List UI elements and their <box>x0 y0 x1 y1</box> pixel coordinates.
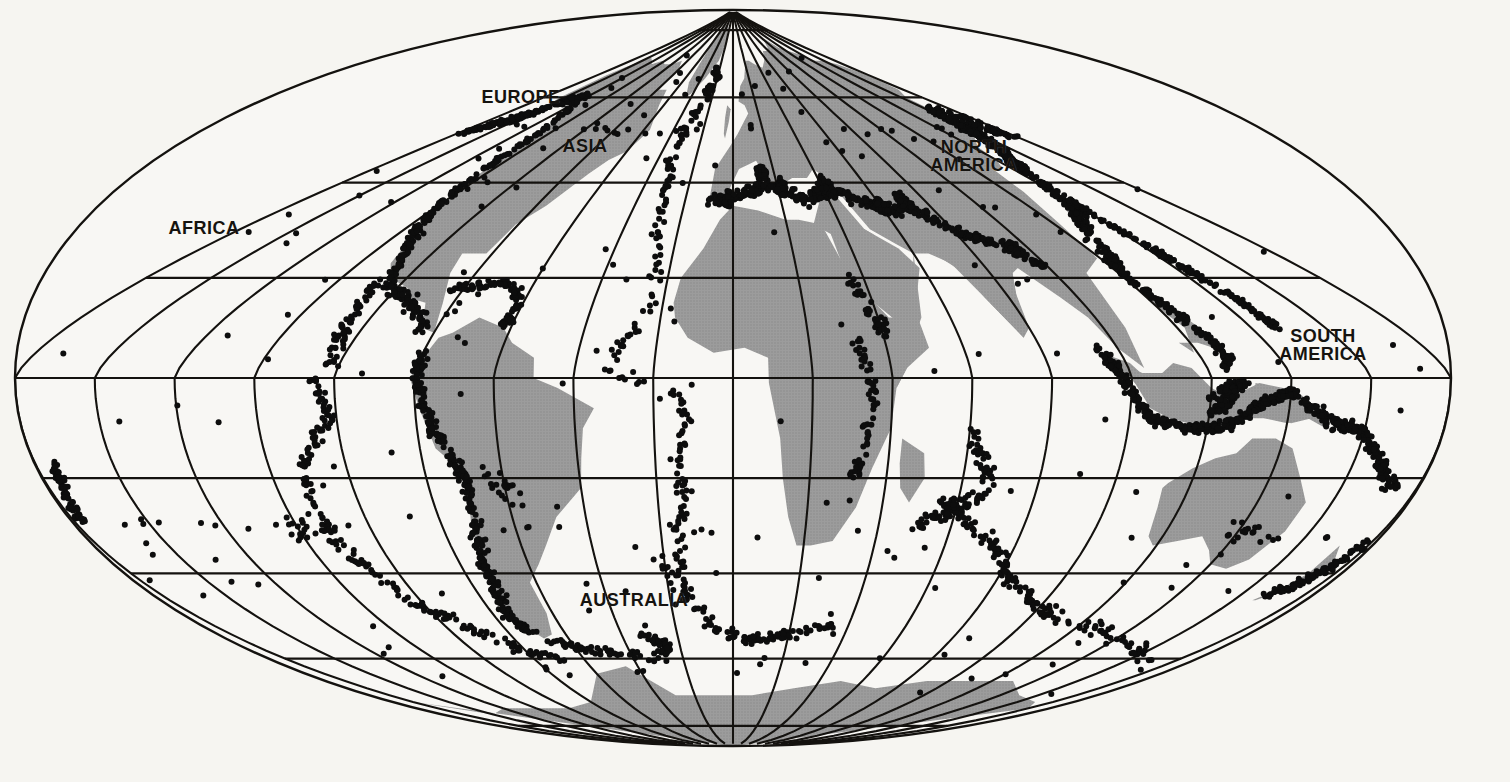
epicenter-dot <box>1073 211 1079 217</box>
epicenter-dot <box>333 538 339 544</box>
epicenter-dot <box>1138 667 1144 673</box>
epicenter-dot <box>517 648 523 654</box>
epicenter-dot <box>1324 534 1330 540</box>
epicenter-dot <box>889 128 895 134</box>
epicenter-dot <box>702 624 708 630</box>
epicenter-dot <box>366 561 372 567</box>
epicenter-dot <box>623 588 629 594</box>
epicenter-dot <box>986 471 992 477</box>
epicenter-dot <box>674 490 680 496</box>
epicenter-dot <box>365 287 371 293</box>
epicenter-dot <box>986 487 992 493</box>
epicenter-dot <box>317 396 323 402</box>
epicenter-dot <box>1054 351 1060 357</box>
epicenter-dot <box>307 378 313 384</box>
epicenter-dot <box>493 482 499 488</box>
epicenter-dot <box>284 515 290 521</box>
epicenter-dot <box>510 502 516 508</box>
epicenter-dot <box>1179 264 1185 270</box>
epicenter-dot <box>663 183 669 189</box>
epicenter-dot <box>767 630 773 636</box>
epicenter-dot <box>682 580 688 586</box>
epicenter-dot <box>1129 392 1135 398</box>
epicenter-dot <box>1363 446 1369 452</box>
epicenter-dot <box>1015 281 1021 287</box>
epicenter-dot <box>452 285 458 291</box>
epicenter-dot <box>395 587 401 593</box>
epicenter-dot <box>1271 400 1277 406</box>
epicenter-dot <box>1176 311 1182 317</box>
epicenter-dot <box>501 527 507 533</box>
epicenter-dot <box>1379 475 1385 481</box>
epicenter-dot <box>967 128 973 134</box>
epicenter-dot <box>122 522 128 528</box>
epicenter-dot <box>341 330 347 336</box>
epicenter-dot <box>374 168 380 174</box>
epicenter-dot <box>1270 318 1276 324</box>
epicenter-dot <box>477 548 483 554</box>
epicenter-dot <box>701 604 707 610</box>
epicenter-dot <box>510 319 516 325</box>
epicenter-dot <box>1136 396 1142 402</box>
epicenter-dot <box>656 243 662 249</box>
epicenter-dot <box>1246 409 1252 415</box>
epicenter-dot <box>476 155 482 161</box>
epicenter-dot <box>858 338 864 344</box>
epicenter-dot <box>420 364 426 370</box>
epicenter-dot <box>1174 317 1180 323</box>
epicenter-dot <box>675 518 681 524</box>
epicenter-dot <box>1372 441 1378 447</box>
epicenter-dot <box>874 200 880 206</box>
epicenter-dot <box>948 132 954 138</box>
epicenter-dot <box>729 626 735 632</box>
epicenter-dot <box>640 308 646 314</box>
epicenter-dot <box>705 95 711 101</box>
epicenter-dot <box>977 445 983 451</box>
epicenter-dot <box>974 500 980 506</box>
epicenter-dot <box>1225 289 1231 295</box>
epicenter-dot <box>1156 252 1162 258</box>
epicenter-dot <box>847 497 853 503</box>
epicenter-dot <box>614 357 620 363</box>
epicenter-dot <box>980 204 986 210</box>
epicenter-dot <box>926 105 932 111</box>
epicenter-dot <box>615 652 621 658</box>
epicenter-dot <box>1275 359 1281 365</box>
epicenter-dot <box>786 69 792 75</box>
epicenter-dot <box>552 117 558 123</box>
epicenter-dot <box>662 202 668 208</box>
epicenter-dot <box>319 428 325 434</box>
epicenter-dot <box>213 557 219 563</box>
epicenter-dot <box>911 136 917 142</box>
epicenter-dot <box>285 312 291 318</box>
epicenter-dot <box>1127 232 1133 238</box>
epicenter-dot <box>488 481 494 487</box>
epicenter-dot <box>1040 180 1046 186</box>
epicenter-dot <box>646 273 652 279</box>
epicenter-dot <box>762 655 768 661</box>
epicenter-dot <box>676 463 682 469</box>
epicenter-dot <box>1015 250 1021 256</box>
epicenter-dot <box>1220 349 1226 355</box>
epicenter-dot <box>1162 424 1168 430</box>
epicenter-dot <box>661 219 667 225</box>
epicenter-dot <box>1185 317 1191 323</box>
epicenter-dot <box>1271 589 1277 595</box>
epicenter-dot <box>1017 589 1023 595</box>
epicenter-dot <box>1055 616 1061 622</box>
epicenter-dot <box>581 126 587 132</box>
epicenter-dot <box>428 609 434 615</box>
epicenter-dot <box>341 542 347 548</box>
epicenter-dot <box>286 521 292 527</box>
epicenter-dot <box>407 241 413 247</box>
epicenter-dot <box>448 454 454 460</box>
epicenter-dot <box>616 349 622 355</box>
epicenter-dot <box>409 304 415 310</box>
epicenter-dot <box>1284 585 1290 591</box>
epicenter-dot <box>1000 238 1006 244</box>
epicenter-dot <box>1360 539 1366 545</box>
epicenter-dot <box>399 252 405 258</box>
epicenter-dot <box>530 629 536 635</box>
epicenter-dot <box>420 408 426 414</box>
epicenter-dot <box>229 579 235 585</box>
